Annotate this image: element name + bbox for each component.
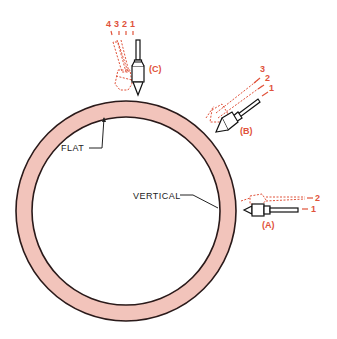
stylus-a-pos-1: 1: [311, 204, 316, 214]
vertical-label: VERTICAL: [133, 191, 181, 201]
stylus-a-label: (A): [262, 220, 275, 230]
stylus-b-pos-2: 2: [265, 73, 270, 83]
stylus-c-pos-2: 2: [122, 19, 127, 29]
stylus-a-ghost: [241, 194, 305, 205]
stylus-c-ghost: [113, 40, 132, 90]
stylus-c: 4 3 2 1 (C): [106, 19, 162, 95]
stylus-a-body: [244, 204, 298, 216]
stylus-c-pos-3: 3: [114, 19, 119, 29]
stylus-c-ticks: [111, 31, 133, 35]
stylus-b-label: (B): [240, 126, 253, 136]
stylus-b-pos-1: 1: [269, 83, 274, 93]
stylus-c-pos-1: 1: [130, 19, 135, 29]
flat-label: FLAT: [61, 143, 84, 153]
stylus-b: 3 2 1 (B): [206, 64, 274, 136]
stylus-c-pos-4: 4: [106, 19, 111, 29]
ring: [16, 101, 236, 321]
stylus-a-pos-2: 2: [315, 193, 320, 203]
stylus-c-label: (C): [149, 64, 162, 74]
stylus-b-body: [216, 99, 260, 132]
stylus-a: 2 1 (A): [241, 193, 320, 230]
stylus-c-body: [132, 40, 144, 95]
diagram-canvas: FLAT VERTICAL 4 3 2 1: [0, 0, 337, 339]
vertical-callout: VERTICAL: [133, 191, 218, 208]
